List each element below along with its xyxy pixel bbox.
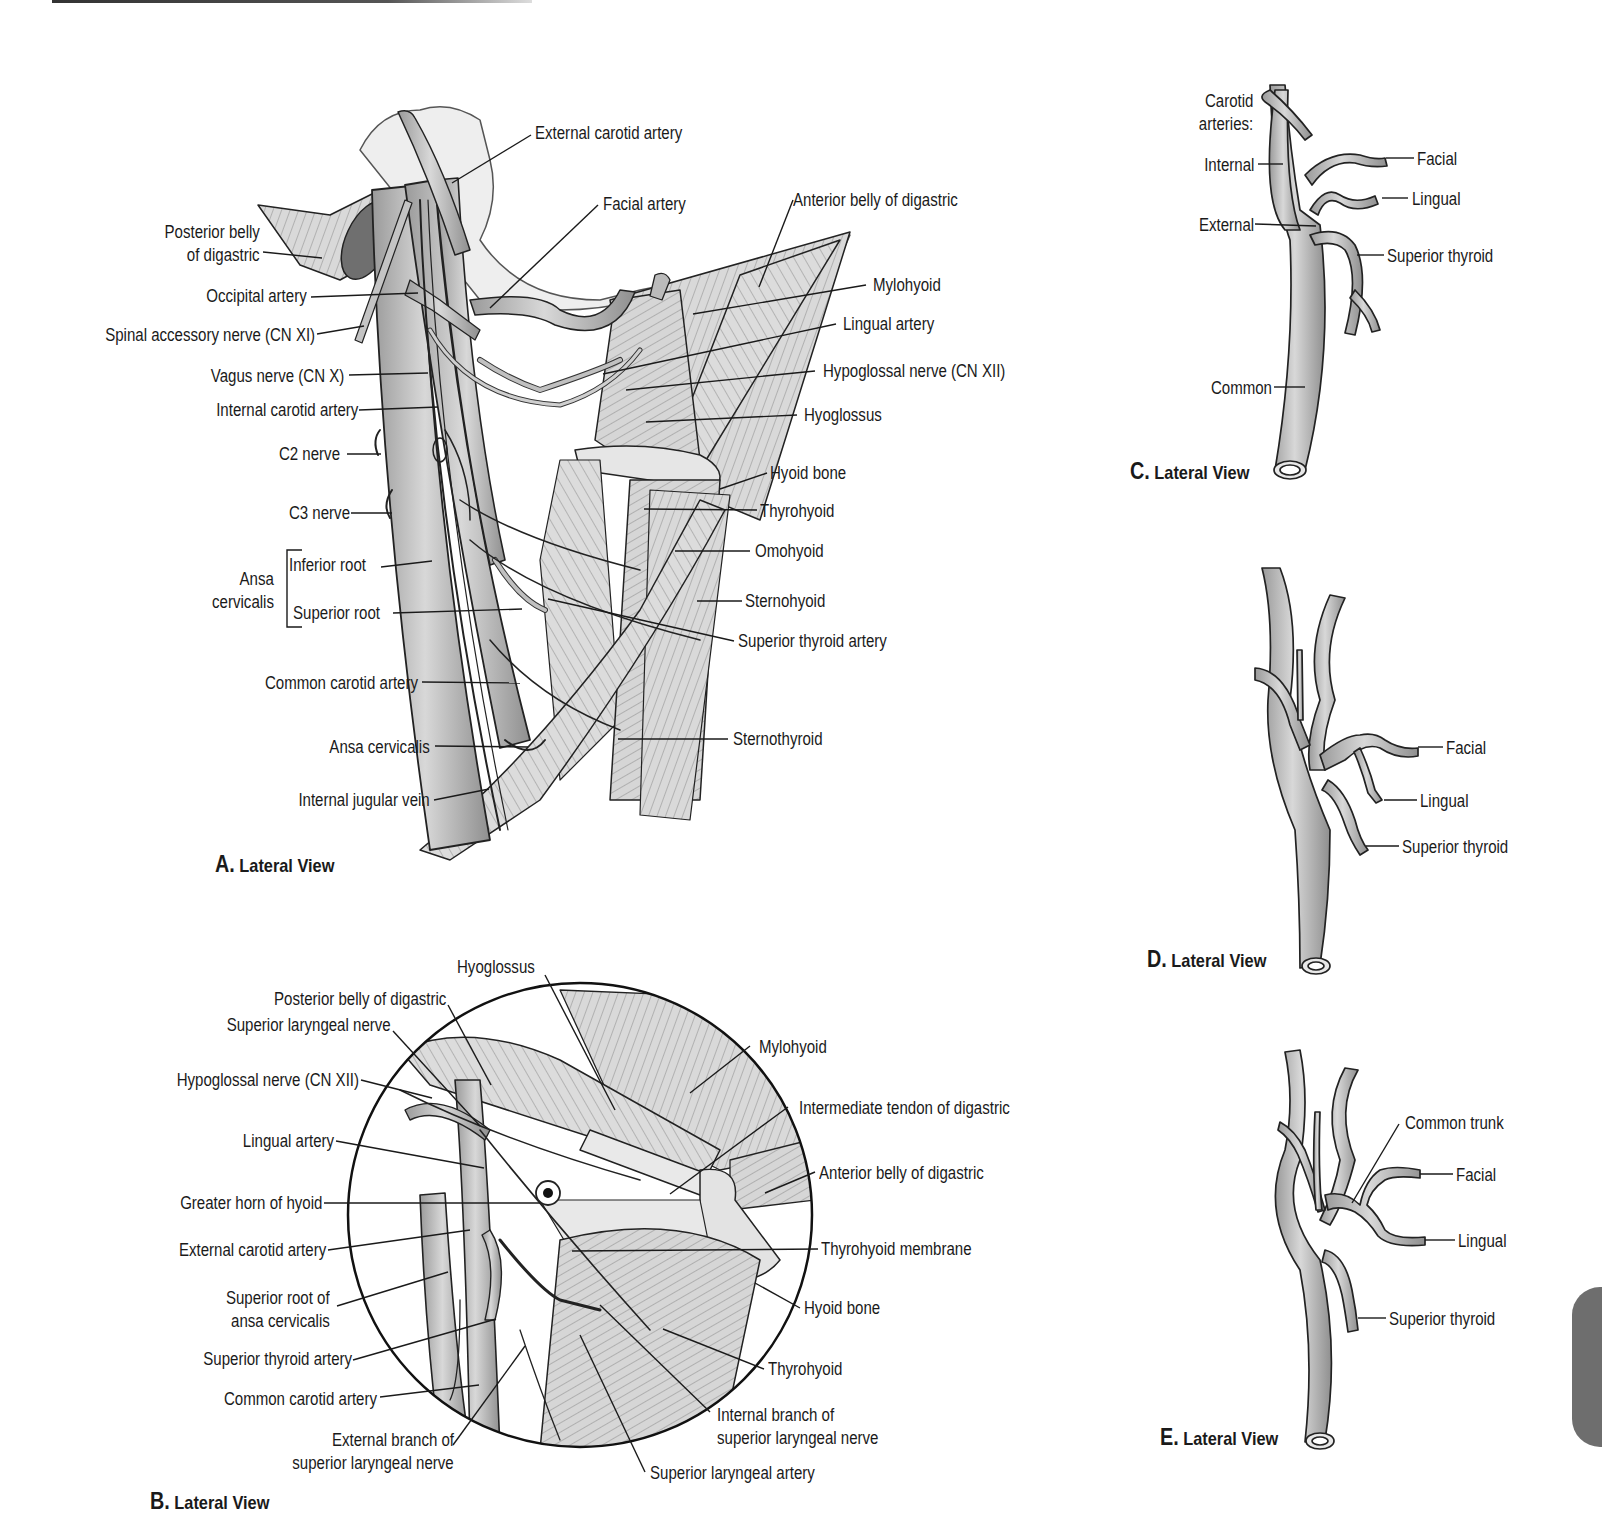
label-d-lingual: Lingual [1420,791,1469,811]
label-b-superior-root-line1: Superior root of [226,1288,330,1308]
label-a-hyoglossus: Hyoglossus [804,405,882,425]
panel-c-drawing [1262,85,1387,479]
label-a-c2-nerve: C2 nerve [279,444,340,464]
label-a-mylohyoid: Mylohyoid [873,275,941,295]
label-a-superior-thyroid-artery: Superior thyroid artery [738,631,887,651]
label-b-internal-branch-line2: superior laryngeal nerve [717,1428,878,1448]
label-a-thyrohyoid: Thyrohyoid [760,501,834,521]
panel-e-drawing [1275,1050,1425,1449]
label-a-external-carotid-artery: External carotid artery [535,123,682,143]
label-a-sternohyoid: Sternohyoid [745,591,825,611]
label-a-omohyoid: Omohyoid [755,541,824,561]
caption-panel-a: A. Lateral View [215,851,334,878]
label-b-superior-root-line2: ansa cervicalis [231,1311,330,1331]
label-e-superior-thyroid: Superior thyroid [1389,1309,1495,1329]
label-b-thyrohyoid: Thyrohyoid [768,1359,842,1379]
label-c-external: External [1199,215,1254,235]
label-b-hyoglossus: Hyoglossus [457,957,535,977]
label-e-lingual: Lingual [1458,1231,1507,1251]
label-b-posterior-belly-of-digastric: Posterior belly of digastric [274,989,446,1009]
label-a-anterior-belly-of-digastric: Anterior belly of digastric [793,190,958,210]
label-c-superior-thyroid: Superior thyroid [1387,246,1493,266]
label-b-external-branch-line2: superior laryngeal nerve [293,1453,454,1473]
label-a-hyoid-bone: Hyoid bone [770,463,846,483]
label-a-vagus-nerve: Vagus nerve (CN X) [210,366,344,386]
label-b-superior-laryngeal-artery: Superior laryngeal artery [650,1463,815,1483]
label-c-internal: Internal [1204,155,1254,175]
caption-panel-e: E. Lateral View [1160,1424,1278,1451]
label-b-anterior-belly-of-digastric: Anterior belly of digastric [819,1163,984,1183]
label-b-intermediate-tendon: Intermediate tendon of digastric [799,1098,1010,1118]
label-b-external-branch-line1: External branch of [332,1430,454,1450]
label-c-carotid-line2: arteries: [1199,114,1253,134]
label-d-facial: Facial [1446,738,1486,758]
label-a-inferior-root: Inferior root [289,555,366,575]
label-c-facial: Facial [1417,149,1457,169]
label-a-posterior-belly-line1: Posterior belly [165,222,260,242]
label-a-sternothyroid: Sternothyroid [733,729,823,749]
label-a-hypoglossal-nerve: Hypoglossal nerve (CN XII) [823,361,1005,381]
label-d-superior-thyroid: Superior thyroid [1402,837,1508,857]
label-a-common-carotid-artery: Common carotid artery [265,673,418,693]
label-a-spinal-accessory-nerve: Spinal accessory nerve (CN XI) [105,325,315,345]
label-c-common: Common [1211,378,1272,398]
label-a-occipital-artery: Occipital artery [207,286,307,306]
label-a-c3-nerve: C3 nerve [289,503,350,523]
label-b-hypoglossal-nerve: Hypoglossal nerve (CN XII) [177,1070,359,1090]
label-a-ansa-group-line2: cervicalis [212,592,274,612]
chapter-thumb-tab [1572,1287,1602,1447]
label-a-ansa-cervicalis: Ansa cervicalis [330,737,430,757]
caption-panel-c: C. Lateral View [1130,458,1249,485]
label-b-lingual-artery: Lingual artery [243,1131,334,1151]
label-b-hyoid-bone: Hyoid bone [804,1298,880,1318]
label-a-posterior-belly-line2: of digastric [187,245,260,265]
label-b-superior-laryngeal-nerve: Superior laryngeal nerve [227,1015,391,1035]
label-b-internal-branch-line1: Internal branch of [717,1405,834,1425]
label-c-carotid-line1: Carotid [1204,91,1253,111]
label-a-facial-artery: Facial artery [603,194,686,214]
caption-panel-b: B. Lateral View [150,1488,269,1515]
label-a-internal-jugular-vein: Internal jugular vein [299,790,430,810]
label-b-greater-horn-of-hyoid: Greater horn of hyoid [180,1193,322,1213]
label-a-ansa-group-line1: Ansa [240,569,274,589]
label-b-superior-thyroid-artery: Superior thyroid artery [203,1349,352,1369]
label-c-lingual: Lingual [1412,189,1461,209]
panel-d-drawing [1255,568,1418,974]
label-e-facial: Facial [1456,1165,1496,1185]
caption-panel-d: D. Lateral View [1147,946,1266,973]
label-a-lingual-artery: Lingual artery [843,314,934,334]
label-e-common-trunk: Common trunk [1405,1113,1504,1133]
panel-b-drawing [348,983,820,1450]
label-a-internal-carotid-artery: Internal carotid artery [216,400,358,420]
label-b-thyrohyoid-membrane: Thyrohyoid membrane [821,1239,972,1259]
label-b-common-carotid-artery: Common carotid artery [224,1389,377,1409]
label-a-superior-root: Superior root [293,603,380,623]
label-b-external-carotid-artery: External carotid artery [179,1240,326,1260]
label-b-mylohyoid: Mylohyoid [759,1037,827,1057]
